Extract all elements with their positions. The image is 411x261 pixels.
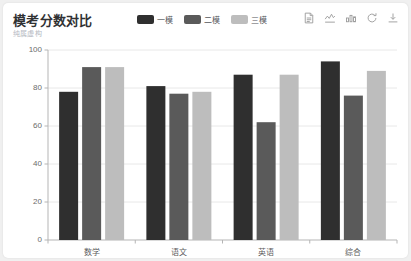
bar[interactable]: 英语 二模: 62 [257, 122, 276, 240]
bar[interactable]: 综合 二模: 76 [344, 96, 363, 240]
bar[interactable]: 语文 二模: 77 [169, 94, 188, 240]
y-axis-tick-label: 80 [33, 83, 42, 92]
bar[interactable]: 数学 一模: 78 [59, 92, 78, 240]
y-axis-tick-label: 60 [33, 121, 42, 130]
bar[interactable]: 综合 一模: 94 [321, 61, 340, 240]
bar[interactable]: 数学 二模: 91 [82, 67, 101, 240]
bar[interactable]: 语文 三模: 78 [192, 92, 211, 240]
x-axis-tick-label: 英语 [258, 247, 274, 257]
x-axis-tick-label: 语文 [171, 247, 187, 257]
bar[interactable]: 英语 三模: 87 [280, 75, 299, 240]
x-axis-tick-label: 数学 [84, 247, 100, 257]
chart-card: 模考分数对比 纯属虚构 一模 二模 三模 [3, 3, 408, 258]
y-axis-tick-label: 20 [33, 197, 42, 206]
y-axis-tick-label: 40 [33, 159, 42, 168]
bar[interactable]: 语文 一模: 81 [146, 86, 165, 240]
x-axis-tick-label: 综合 [345, 247, 361, 257]
bar[interactable]: 英语 一模: 87 [234, 75, 253, 240]
y-axis-tick-label: 0 [38, 235, 43, 244]
chart-plot-area: 020406080100数学 一模: 78数学 二模: 91数学 三模: 91数… [3, 3, 408, 258]
y-axis-tick-label: 100 [29, 45, 43, 54]
bar[interactable]: 综合 三模: 89 [367, 71, 386, 240]
bar[interactable]: 数学 三模: 91 [105, 67, 124, 240]
